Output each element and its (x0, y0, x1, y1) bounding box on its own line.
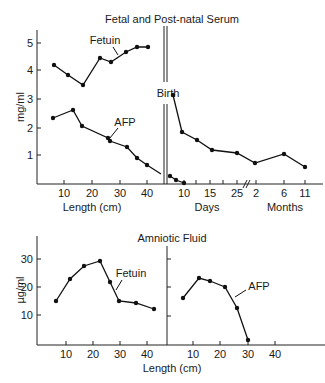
svg-text:40: 40 (269, 348, 281, 360)
series-fetal-afp (51, 108, 161, 174)
birth-label: Birth (157, 87, 180, 99)
svg-text:20: 20 (86, 187, 98, 199)
series-postnatal-fetuin (171, 93, 307, 169)
svg-text:6: 6 (281, 187, 287, 199)
svg-text:4: 4 (27, 64, 33, 76)
birth-divider (164, 26, 167, 184)
svg-text:3: 3 (27, 93, 33, 105)
afp-arrow-bottom (235, 290, 246, 297)
afp-annotation-bottom: AFP (248, 280, 269, 292)
svg-text:10: 10 (21, 309, 33, 321)
months-label: Months (267, 201, 304, 213)
svg-text:15: 15 (204, 187, 216, 199)
svg-text:30: 30 (21, 253, 33, 265)
fetuin-arrow-bottom (116, 280, 122, 290)
top-x-axis-label: Length (cm) (63, 201, 122, 213)
fetuin-arrow-top (113, 47, 118, 55)
bottom-x-axis-label: Length (cm) (143, 362, 202, 374)
bottom-right-axes (167, 246, 275, 345)
bottom-x-tick-labels: 10 20 30 40 10 20 30 40 (60, 348, 281, 360)
svg-text:10: 10 (58, 187, 70, 199)
svg-text:40: 40 (141, 187, 153, 199)
svg-text:5: 5 (27, 37, 33, 49)
top-x-tick-labels: 10 20 30 40 10 15 25 2 6 11 (58, 187, 311, 199)
days-label: Days (194, 201, 220, 213)
chart-figure: Fetal and Post-natal Serum 5 4 3 2 1 mg/… (0, 0, 325, 383)
svg-text:20: 20 (214, 348, 226, 360)
series-fetal-fetuin (52, 45, 150, 87)
svg-text:10: 10 (187, 348, 199, 360)
bottom-y-axis-label: µg/ml (14, 276, 26, 303)
top-chart-title: Fetal and Post-natal Serum (105, 13, 239, 25)
afp-annotation-top: AFP (114, 116, 135, 128)
svg-text:2: 2 (27, 122, 33, 134)
series-amniotic-afp (181, 276, 250, 342)
top-y-axis (37, 30, 41, 184)
svg-text:30: 30 (242, 348, 254, 360)
svg-text:25: 25 (231, 187, 243, 199)
top-y-axis-label: mg/ml (14, 92, 26, 122)
svg-text:2: 2 (253, 187, 259, 199)
svg-text:1: 1 (27, 149, 33, 161)
top-y-tick-labels: 5 4 3 2 1 (27, 37, 33, 161)
svg-text:20: 20 (87, 348, 99, 360)
afp-arrow-top (110, 128, 118, 138)
bottom-chart-title: Amniotic Fluid (137, 232, 206, 244)
svg-text:11: 11 (299, 187, 310, 199)
bottom-left-axes (37, 236, 325, 345)
fetuin-annotation-top: Fetuin (90, 34, 121, 46)
fetuin-annotation-bottom: Fetuin (116, 267, 147, 279)
svg-text:30: 30 (114, 187, 126, 199)
series-postnatal-afp (168, 174, 186, 185)
svg-text:30: 30 (114, 348, 126, 360)
svg-text:10: 10 (60, 348, 72, 360)
svg-text:10: 10 (178, 187, 190, 199)
svg-text:40: 40 (141, 348, 153, 360)
